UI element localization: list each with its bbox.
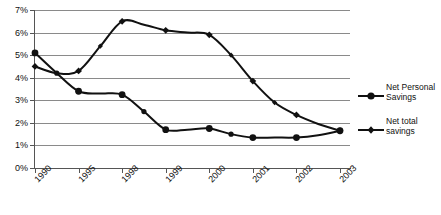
data-point-circle (206, 125, 213, 132)
data-point-circle (141, 109, 146, 114)
data-point-circle (162, 126, 169, 133)
data-point-diamond (162, 27, 169, 34)
series-line-net-personal-savings (35, 53, 340, 138)
legend-label-line2: savings (386, 126, 441, 136)
legend-item-net-total-savings: Net total savings (358, 116, 441, 136)
data-point-diamond (293, 112, 300, 119)
data-point-circle (228, 132, 233, 137)
savings-line-chart: 0%1%2%3%4%5%6%7% 19901995199819992000200… (0, 0, 441, 215)
data-point-circle (75, 88, 82, 95)
data-point-circle (249, 134, 256, 141)
diamond-marker-icon (358, 121, 384, 131)
data-point-circle (293, 134, 300, 141)
data-point-circle (119, 91, 126, 98)
circle-marker-icon (358, 87, 384, 97)
legend-label-line1: Net Personal (386, 82, 441, 92)
legend-label-line2: Savings (386, 92, 441, 102)
data-point-circle (32, 49, 39, 56)
legend-item-net-personal-savings: Net Personal Savings (358, 82, 441, 102)
chart-legend: Net Personal Savings Net total savings (358, 82, 441, 150)
data-point-diamond (32, 63, 39, 70)
legend-label-line1: Net total (386, 116, 441, 126)
